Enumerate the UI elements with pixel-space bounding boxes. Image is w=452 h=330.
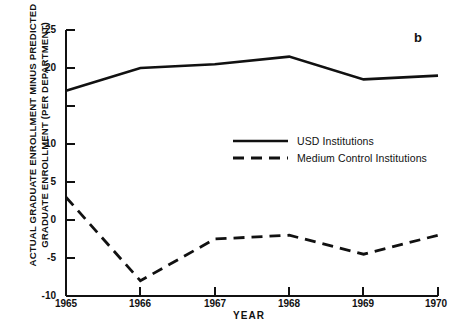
legend-label-medium-control-institutions: Medium Control Institutions [297, 152, 427, 164]
x-tick-label-1970: 1970 [411, 298, 452, 309]
legend-label-usd-institutions: USD Institutions [297, 135, 374, 147]
x-tick-label-1968: 1968 [264, 298, 314, 309]
legend-swatch-dashed-line-icon [233, 152, 288, 164]
x-tick-label-1965: 1965 [41, 298, 91, 309]
x-axis-ticks [66, 287, 438, 296]
chart-figure: ACTUAL GRADUATE ENROLLMENT MINUS PREDICT… [0, 0, 452, 330]
x-tick-label-1969: 1969 [338, 298, 388, 309]
x-tick-label-1966: 1966 [115, 298, 165, 309]
series-medium-control-institutions-line [66, 197, 438, 281]
x-axis-title: YEAR [60, 310, 438, 321]
x-tick-label-1967: 1967 [190, 298, 240, 309]
y-axis-ticks [66, 30, 75, 296]
legend-item-usd-institutions: USD Institutions [233, 132, 427, 149]
chart-legend: USD Institutions Medium Control Institut… [233, 132, 427, 166]
legend-swatch-solid-line-icon [233, 135, 288, 147]
panel-letter: b [414, 30, 422, 45]
series-usd-institutions-line [66, 57, 438, 91]
legend-item-medium-control-institutions: Medium Control Institutions [233, 149, 427, 166]
